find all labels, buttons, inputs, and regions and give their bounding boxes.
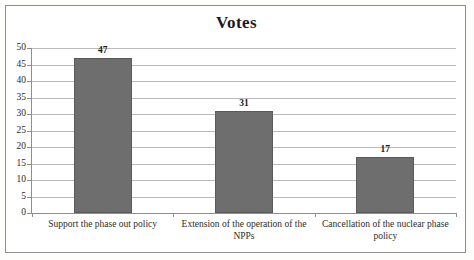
bar-value-label: 31 — [215, 98, 273, 108]
y-tick-label: 25 — [8, 125, 26, 135]
y-tick-label: 15 — [8, 158, 26, 168]
y-axis-tick-labels: 05101520253035404550 — [6, 6, 26, 260]
chart-frame: Votes 05101520253035404550 473117 Suppor… — [5, 5, 466, 253]
y-tick-label: 40 — [8, 75, 26, 85]
bar-value-label: 47 — [74, 45, 132, 55]
bar-value-label: 17 — [356, 144, 414, 154]
y-tick-label: 20 — [8, 141, 26, 151]
category-label: Cancellation of the nuclear phase policy — [319, 218, 452, 242]
category-tick — [32, 213, 33, 217]
gridline — [32, 213, 456, 214]
y-tick-label: 0 — [8, 207, 26, 217]
y-tick-label: 50 — [8, 42, 26, 52]
category-axis-labels: Support the phase out policyExtension of… — [32, 218, 456, 254]
plot-area: 473117 — [32, 48, 456, 213]
y-tick-label: 30 — [8, 108, 26, 118]
category-tick — [315, 213, 316, 217]
y-tick-label: 45 — [8, 59, 26, 69]
chart-figure: Votes 05101520253035404550 473117 Suppor… — [0, 0, 474, 260]
category-label: Support the phase out policy — [36, 218, 169, 230]
bar[interactable] — [215, 111, 273, 213]
chart-title: Votes — [6, 13, 467, 33]
category-tick — [456, 213, 457, 217]
y-tick-label: 5 — [8, 191, 26, 201]
category-tick — [173, 213, 174, 217]
y-tick-label: 10 — [8, 174, 26, 184]
y-tick-label: 35 — [8, 92, 26, 102]
bar[interactable] — [356, 157, 414, 213]
bar[interactable] — [74, 58, 132, 213]
category-label: Extension of the operation of the NPPs — [177, 218, 310, 242]
